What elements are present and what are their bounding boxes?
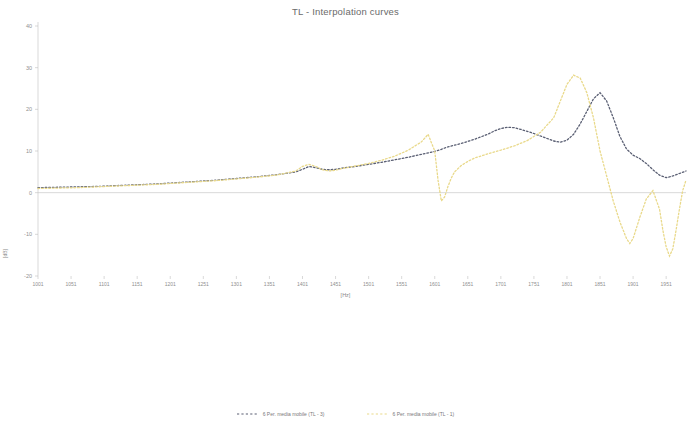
svg-text:-10: -10 bbox=[24, 231, 32, 237]
x-axis: 1001105111011151120112511301135114011451… bbox=[32, 193, 686, 287]
svg-text:1901: 1901 bbox=[628, 281, 639, 287]
y-axis-label: [dB] bbox=[2, 249, 8, 258]
svg-text:1451: 1451 bbox=[330, 281, 341, 287]
svg-text:1251: 1251 bbox=[198, 281, 209, 287]
plot-area: 403020100-10-20 100110511101115112011251… bbox=[0, 0, 691, 427]
svg-text:-20: -20 bbox=[24, 273, 32, 279]
data-series-group bbox=[38, 75, 686, 256]
chart-legend: 6 Per. media mobile (TL - 3) 6 Per. medi… bbox=[0, 411, 691, 417]
y-axis: 403020100-10-20 bbox=[24, 22, 38, 279]
svg-text:1801: 1801 bbox=[561, 281, 572, 287]
svg-text:1301: 1301 bbox=[231, 281, 242, 287]
svg-text:1551: 1551 bbox=[396, 281, 407, 287]
svg-text:1751: 1751 bbox=[528, 281, 539, 287]
series-line bbox=[38, 75, 686, 256]
svg-text:0: 0 bbox=[29, 190, 32, 196]
legend-item[interactable]: 6 Per. media mobile (TL - 1) bbox=[367, 411, 455, 417]
svg-text:20: 20 bbox=[26, 106, 32, 112]
svg-text:40: 40 bbox=[26, 23, 32, 29]
legend-item[interactable]: 6 Per. media mobile (TL - 3) bbox=[237, 411, 325, 417]
svg-text:30: 30 bbox=[26, 65, 32, 71]
svg-text:1201: 1201 bbox=[165, 281, 176, 287]
legend-label: 6 Per. media mobile (TL - 1) bbox=[393, 411, 455, 417]
svg-text:1151: 1151 bbox=[132, 281, 143, 287]
svg-text:1701: 1701 bbox=[495, 281, 506, 287]
legend-label: 6 Per. media mobile (TL - 3) bbox=[263, 411, 325, 417]
svg-text:1601: 1601 bbox=[429, 281, 440, 287]
svg-text:1851: 1851 bbox=[594, 281, 605, 287]
x-axis-label: [Hz] bbox=[0, 292, 691, 298]
svg-text:1101: 1101 bbox=[99, 281, 110, 287]
svg-text:1651: 1651 bbox=[462, 281, 473, 287]
svg-text:1351: 1351 bbox=[264, 281, 275, 287]
svg-text:1051: 1051 bbox=[65, 281, 76, 287]
svg-text:1001: 1001 bbox=[32, 281, 43, 287]
legend-swatch-icon bbox=[237, 411, 259, 417]
svg-text:1951: 1951 bbox=[661, 281, 672, 287]
series-line bbox=[38, 93, 686, 188]
legend-swatch-icon bbox=[367, 411, 389, 417]
svg-text:1401: 1401 bbox=[297, 281, 308, 287]
svg-text:10: 10 bbox=[26, 148, 32, 154]
chart-container: TL - Interpolation curves 403020100-10-2… bbox=[0, 0, 691, 427]
svg-text:1501: 1501 bbox=[363, 281, 374, 287]
